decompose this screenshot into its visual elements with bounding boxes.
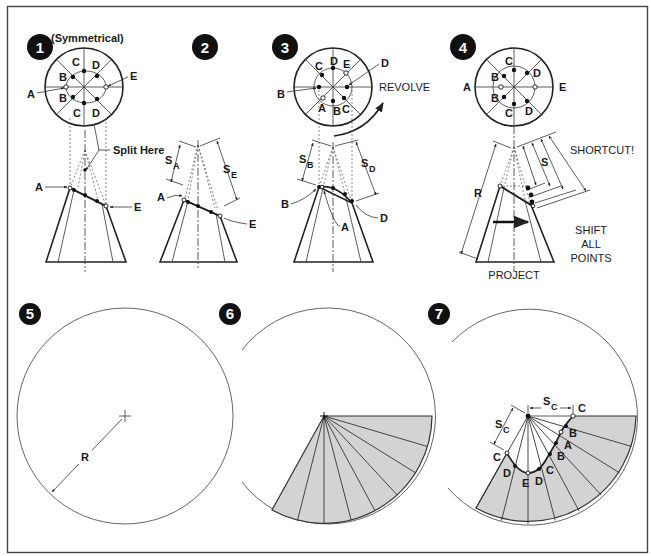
- svg-text:D: D: [535, 475, 543, 487]
- svg-text:S: S: [543, 395, 550, 407]
- step-1-panel: 1 (Symmetrical) C D B E A B C D: [27, 32, 164, 272]
- svg-text:C: C: [315, 60, 323, 72]
- svg-text:D: D: [381, 57, 389, 69]
- svg-text:E: E: [231, 170, 237, 180]
- svg-text:4: 4: [459, 39, 468, 56]
- svg-text:S: S: [223, 163, 230, 175]
- svg-text:D: D: [525, 105, 533, 117]
- svg-text:R: R: [474, 187, 482, 199]
- svg-text:D: D: [369, 164, 376, 174]
- shift-label-1: SHIFT: [575, 224, 607, 236]
- step-6-panel: 6: [219, 303, 435, 524]
- step-6-badge: 6: [219, 303, 241, 325]
- step-3-top-view: C D E D B A B C REVOLVE: [277, 48, 430, 136]
- svg-text:A: A: [27, 88, 35, 100]
- svg-text:B: B: [569, 427, 577, 439]
- svg-text:C: C: [493, 451, 501, 463]
- svg-text:E: E: [559, 81, 566, 93]
- shift-label-2: ALL: [581, 238, 601, 250]
- svg-text:B: B: [557, 450, 565, 462]
- step-4-top-view: C B D A E B D C: [463, 48, 566, 126]
- svg-text:A: A: [157, 191, 165, 203]
- svg-text:C: C: [551, 402, 558, 412]
- svg-text:D: D: [503, 467, 511, 479]
- step-2-front-view: S A S E A E: [157, 138, 256, 268]
- step-1-badge: 1: [27, 34, 53, 60]
- step-2-panel: 2 S A S E: [157, 34, 256, 268]
- svg-text:S: S: [495, 418, 502, 430]
- svg-text:B: B: [491, 92, 499, 104]
- svg-text:B: B: [491, 71, 499, 83]
- svg-text:S: S: [165, 154, 172, 166]
- svg-text:D: D: [330, 55, 338, 67]
- svg-text:1: 1: [36, 39, 44, 56]
- svg-text:B: B: [277, 88, 285, 100]
- svg-text:C: C: [505, 55, 513, 67]
- svg-text:B: B: [333, 105, 341, 117]
- svg-text:C: C: [342, 103, 350, 115]
- svg-text:C: C: [73, 107, 81, 119]
- shortcut-label: SHORTCUT!: [570, 144, 634, 156]
- svg-text:A: A: [564, 439, 572, 451]
- svg-text:B: B: [59, 92, 67, 104]
- split-here-label: Split Here: [113, 144, 164, 156]
- svg-text:D: D: [380, 212, 388, 224]
- step-3-front-view: S B S D B A D: [281, 140, 388, 272]
- svg-text:A: A: [341, 221, 349, 233]
- step-7-badge: 7: [428, 303, 450, 325]
- svg-text:2: 2: [201, 39, 209, 56]
- svg-text:R: R: [81, 451, 89, 463]
- step-6-sector: [272, 416, 432, 523]
- svg-text:E: E: [343, 58, 350, 70]
- svg-text:C: C: [546, 464, 554, 476]
- svg-text:B: B: [281, 198, 289, 210]
- project-label: PROJECT: [488, 269, 540, 281]
- step-7-panel: 7 S C: [428, 303, 638, 525]
- svg-text:C: C: [503, 425, 510, 435]
- svg-text:A: A: [35, 181, 43, 193]
- svg-text:E: E: [130, 70, 137, 82]
- svg-text:D: D: [533, 67, 541, 79]
- step-1-top-view: C D B E A B C D: [27, 48, 137, 126]
- symmetrical-caption: (Symmetrical): [51, 32, 124, 44]
- svg-text:B: B: [59, 71, 67, 83]
- revolve-label: REVOLVE: [379, 81, 430, 93]
- svg-text:7: 7: [435, 305, 443, 322]
- step-1-front-view: A E Split Here: [35, 124, 164, 272]
- svg-text:S: S: [541, 156, 548, 168]
- step-5-badge: 5: [19, 303, 41, 325]
- svg-text:C: C: [72, 56, 80, 68]
- svg-text:E: E: [522, 477, 529, 489]
- step-4-front-view: R S SHORTCUT! SHIFT ALL POINTS PROJECT: [459, 126, 634, 281]
- step-4-panel: 4 C B D A E B D C: [450, 34, 634, 281]
- shift-label-3: POINTS: [571, 252, 612, 264]
- svg-text:B: B: [307, 160, 314, 170]
- svg-text:E: E: [134, 201, 141, 213]
- step-3-badge: 3: [272, 34, 298, 60]
- svg-text:A: A: [463, 81, 471, 93]
- svg-text:C: C: [578, 402, 586, 414]
- svg-text:A: A: [173, 161, 180, 171]
- svg-text:6: 6: [226, 305, 234, 322]
- svg-text:S: S: [361, 157, 368, 169]
- step-2-badge: 2: [192, 34, 218, 60]
- svg-text:5: 5: [26, 305, 34, 322]
- step-3-panel: 3 C D E D B A B C REVOLV: [272, 34, 430, 272]
- svg-text:E: E: [249, 218, 256, 230]
- svg-text:S: S: [299, 153, 306, 165]
- step-4-badge: 4: [450, 34, 476, 60]
- step-5-panel: 5 R: [17, 303, 233, 524]
- svg-text:D: D: [92, 59, 100, 71]
- svg-text:D: D: [92, 107, 100, 119]
- svg-text:3: 3: [281, 39, 289, 56]
- svg-text:C: C: [505, 107, 513, 119]
- cone-development-figure: 1 (Symmetrical) C D B E A B C D: [0, 0, 651, 556]
